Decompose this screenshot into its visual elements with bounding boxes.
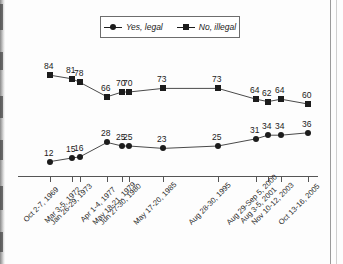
data-point-marker — [215, 85, 221, 91]
data-point-marker — [305, 130, 311, 136]
x-axis-tick — [107, 177, 108, 182]
data-point-marker — [305, 101, 311, 107]
data-point-marker — [126, 143, 132, 149]
data-point-value: 66 — [101, 83, 111, 93]
data-point-value: 62 — [262, 88, 272, 98]
data-point-marker — [253, 96, 259, 102]
data-point-value: 84 — [44, 61, 54, 71]
data-point-marker — [253, 136, 259, 142]
data-point-value: 78 — [74, 68, 84, 78]
data-point-value: 23 — [157, 134, 167, 144]
data-point-value: 28 — [101, 128, 111, 138]
data-point-value: 25 — [212, 132, 222, 142]
data-point-value: 34 — [275, 121, 285, 131]
data-point-value: 73 — [157, 74, 167, 84]
x-axis-tick — [281, 177, 282, 182]
data-point-value: 25 — [123, 132, 133, 142]
data-point-marker — [77, 79, 83, 85]
data-point-marker — [160, 85, 166, 91]
data-point-value: 34 — [262, 121, 272, 131]
data-point-value: 12 — [44, 148, 54, 158]
data-point-value: 64 — [250, 85, 260, 95]
x-axis-tick — [256, 177, 257, 182]
data-point-value: 16 — [74, 143, 84, 153]
data-point-marker — [278, 96, 284, 102]
x-axis-tick — [50, 177, 51, 182]
x-axis-tick — [80, 177, 81, 182]
x-axis-tick — [308, 177, 309, 182]
data-point-value: 73 — [212, 74, 222, 84]
data-point-marker — [119, 143, 125, 149]
data-point-marker — [47, 72, 53, 78]
data-point-marker — [104, 94, 110, 100]
data-point-marker — [69, 155, 75, 161]
chart-figure: Yes, legal No, illegal 12151628252523253… — [0, 0, 343, 264]
data-point-value: 60 — [302, 90, 312, 100]
data-point-marker — [77, 154, 83, 160]
x-axis-tick — [122, 177, 123, 182]
data-point-value: 31 — [250, 125, 260, 135]
data-point-marker — [119, 89, 125, 95]
series-lines — [0, 0, 343, 264]
data-point-value: 70 — [123, 78, 133, 88]
data-point-value: 36 — [302, 119, 312, 129]
data-point-marker — [215, 143, 221, 149]
data-point-marker — [265, 99, 271, 105]
x-axis-tick — [218, 177, 219, 182]
data-point-value: 64 — [275, 85, 285, 95]
data-point-marker — [47, 159, 53, 165]
data-point-marker — [126, 89, 132, 95]
x-axis-tick — [72, 177, 73, 182]
x-axis-tick — [163, 177, 164, 182]
